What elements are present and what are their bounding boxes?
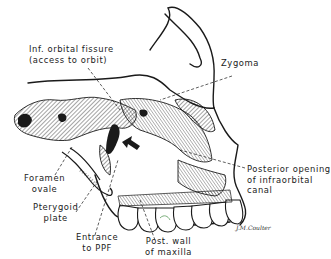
label-line: canal [247, 185, 331, 196]
label-inf-orbital-fissure: Inf. orbital fissure (access to orbit) [29, 44, 114, 65]
label-line: Zygoma [221, 58, 259, 69]
label-entrance-ppf: Entrance to PPF [76, 232, 118, 253]
label-line: Posterior opening [247, 164, 331, 175]
label-post-wall-maxilla: Post. wall of maxilla [145, 236, 192, 257]
label-foramen-ovale: Foramen ovale [24, 173, 65, 194]
label-pterygoid-plate: Pterygoid plate [33, 202, 78, 223]
label-line: of maxilla [145, 247, 192, 258]
label-line: of infraorbital [247, 175, 331, 186]
label-line: to PPF [76, 243, 118, 254]
label-line: (access to orbit) [29, 55, 114, 66]
label-line: Entrance [76, 232, 118, 243]
label-line: Post. wall [145, 236, 192, 247]
label-zygoma: Zygoma [221, 58, 259, 69]
label-line: ovale [24, 184, 65, 195]
label-line: Foramen [24, 173, 65, 184]
artist-signature: J.M.Coulter [236, 224, 271, 231]
arrow-icon [122, 136, 140, 150]
label-line: plate [33, 213, 78, 224]
label-posterior-opening-infraorbital-canal: Posterior opening of infraorbital canal [247, 164, 331, 196]
label-line: Pterygoid [33, 202, 78, 213]
label-line: Inf. orbital fissure [29, 44, 114, 55]
anatomy-figure: Inf. orbital fissure (access to orbit) Z… [0, 0, 331, 259]
